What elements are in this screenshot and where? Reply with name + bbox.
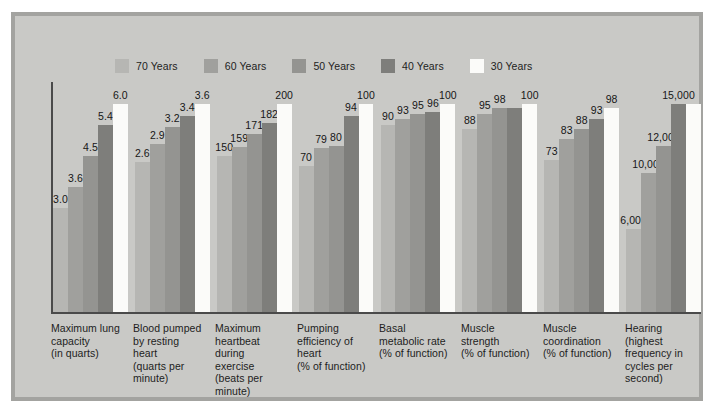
category-label-line: Pumping <box>297 322 372 335</box>
category-label-line: (beats per <box>215 372 290 385</box>
bar-slot: 90 <box>381 82 396 312</box>
bar[interactable]: 2.6 <box>135 162 150 312</box>
bar-group: 70798094100 <box>299 82 381 312</box>
bar[interactable]: 6,000 <box>626 229 641 312</box>
bar-value-label: 3.4 <box>180 101 195 113</box>
bar-group: 3.03.64.55.46.0 <box>53 82 135 312</box>
bar[interactable]: 4.5 <box>83 156 98 312</box>
bar[interactable]: 95 <box>477 114 492 312</box>
bar[interactable]: 3.4 <box>180 116 195 312</box>
bar[interactable]: 73 <box>544 160 559 312</box>
bar[interactable]: 150 <box>217 156 232 312</box>
bar[interactable]: 5.4 <box>98 125 113 312</box>
bar[interactable]: 88 <box>462 129 477 312</box>
bar-group: 90939596100 <box>381 82 463 312</box>
bar-slot: 10,000 <box>641 82 656 312</box>
bar[interactable]: 100 <box>440 104 455 312</box>
bar-slot: 73 <box>544 82 559 312</box>
chart-legend: 70 Years60 Years50 Years40 Years30 Years <box>115 58 558 73</box>
category-label-line: heart <box>133 347 208 360</box>
category-label-line: Basal <box>379 322 454 335</box>
bar-value-label: 98 <box>606 93 618 105</box>
bar-value-label: 3.0 <box>53 193 68 205</box>
category-label: Maximumheartbeatduringexercise(beats per… <box>215 322 297 398</box>
bar-value-label: 70 <box>300 151 312 163</box>
bar-value-label: 96 <box>427 97 439 109</box>
category-label-line: (highest <box>625 335 700 348</box>
bar[interactable]: 6.0 <box>113 104 128 312</box>
x-axis-line <box>51 312 701 314</box>
bar-slot: 3.4 <box>180 82 195 312</box>
bar[interactable] <box>686 104 701 312</box>
bar-value-label: 171 <box>245 119 263 131</box>
bar[interactable]: 96 <box>425 112 440 312</box>
bar[interactable]: 93 <box>395 119 410 312</box>
bar[interactable]: 3.2 <box>165 127 180 312</box>
bar-slot: 100 <box>440 82 455 312</box>
bar[interactable]: 12,000 <box>656 146 671 312</box>
bar[interactable]: 88 <box>574 129 589 312</box>
bar-slot: 3.6 <box>68 82 83 312</box>
bar[interactable]: 2.9 <box>150 144 165 312</box>
bar[interactable]: 3.0 <box>53 208 68 312</box>
bar-slot: 182 <box>262 82 277 312</box>
category-label-line: Blood pumped <box>133 322 208 335</box>
category-label-line: frequency in <box>625 347 700 360</box>
bar-slot: 6.0 <box>113 82 128 312</box>
bar-slot: 80 <box>329 82 344 312</box>
legend-item: 70 Years <box>115 59 178 73</box>
bar-value-label: 88 <box>464 114 476 126</box>
bar-value-label: 2.6 <box>135 147 150 159</box>
bar[interactable] <box>507 108 522 312</box>
bar[interactable]: 100 <box>522 104 537 312</box>
bar-value-label: 90 <box>382 110 394 122</box>
category-label-line: coordination <box>543 335 618 348</box>
bar[interactable]: 171 <box>247 134 262 312</box>
category-label-line: heartbeat <box>215 335 290 348</box>
bar[interactable]: 93 <box>589 119 604 312</box>
bar-value-label: 80 <box>330 131 342 143</box>
bar-slot: 98 <box>492 82 507 312</box>
bar[interactable]: 159 <box>232 147 247 312</box>
legend-item: 60 Years <box>204 59 267 73</box>
bar[interactable]: 200 <box>277 104 292 312</box>
bar-value-label: 3.2 <box>165 112 180 124</box>
bar[interactable]: 95 <box>410 114 425 312</box>
bar[interactable]: 10,000 <box>641 173 656 312</box>
bar-slot <box>507 82 522 312</box>
bar[interactable]: 3.6 <box>68 187 83 312</box>
bar-group: 7383889398 <box>544 82 626 312</box>
legend-swatch-icon <box>204 59 218 73</box>
bar[interactable]: 94 <box>344 116 359 312</box>
bar-slot: 2.9 <box>150 82 165 312</box>
bar-slot: 93 <box>395 82 410 312</box>
category-label-line: exercise <box>215 360 290 373</box>
bar-slot: 3.0 <box>53 82 68 312</box>
bar[interactable]: 80 <box>329 146 344 312</box>
bar[interactable]: 100 <box>359 104 374 312</box>
legend-label: 60 Years <box>225 60 267 72</box>
bar[interactable]: 15,000 <box>671 104 686 312</box>
bar[interactable]: 3.6 <box>195 104 210 312</box>
bar[interactable]: 98 <box>604 108 619 312</box>
bar-group: 6,00010,00012,00015,000 <box>626 82 701 312</box>
bar-slot: 95 <box>410 82 425 312</box>
category-label-line: strength <box>461 335 536 348</box>
bar[interactable]: 90 <box>381 125 396 312</box>
legend-label: 40 Years <box>402 60 444 72</box>
bar-value-label: 3.6 <box>195 89 210 101</box>
category-label-line: (% of function) <box>461 347 536 360</box>
bar-slot: 6,000 <box>626 82 641 312</box>
category-label: Hearing(highestfrequency incycles persec… <box>625 322 707 398</box>
legend-item: 30 Years <box>470 59 533 73</box>
bar-group: 2.62.93.23.43.6 <box>135 82 217 312</box>
bar[interactable]: 79 <box>314 148 329 312</box>
bar-value-label: 159 <box>230 132 248 144</box>
bar[interactable]: 83 <box>559 139 574 312</box>
bar-group: 150159171182200 <box>217 82 299 312</box>
bar-slot: 88 <box>462 82 477 312</box>
bar[interactable]: 70 <box>299 166 314 312</box>
bar-slot: 88 <box>574 82 589 312</box>
bar[interactable]: 98 <box>492 108 507 312</box>
bar[interactable]: 182 <box>262 123 277 312</box>
